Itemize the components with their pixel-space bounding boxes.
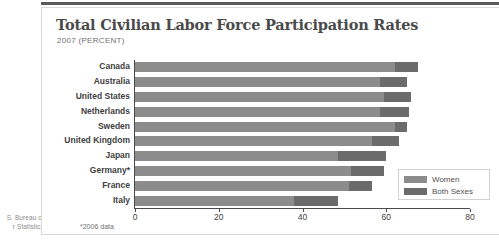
chart-title: Total Civilian Labor Force Participation… — [56, 16, 418, 33]
category-label: Australia — [94, 76, 130, 87]
bar-row: Canada — [135, 62, 470, 72]
bar-segment-women — [135, 136, 372, 146]
category-label: United States — [76, 91, 130, 102]
bar-segment-women — [135, 122, 395, 132]
category-label: Canada — [99, 61, 130, 72]
chart-footnote: *2006 data — [80, 223, 114, 230]
bar-segment-women — [135, 151, 338, 161]
chart-panel: Total Civilian Labor Force Participation… — [41, 7, 499, 235]
bar-row: Japan — [135, 151, 470, 161]
category-label: Italy — [113, 195, 130, 206]
source-margin-line-2: r Statistics — [0, 223, 44, 232]
legend-swatch — [404, 188, 427, 195]
bar-row: Australia — [135, 77, 470, 87]
bar-segment-women — [135, 62, 395, 72]
chart-legend: WomenBoth Sexes — [398, 169, 490, 200]
x-axis-tick-label: 20 — [214, 212, 223, 222]
source-margin-line-1: S. Bureau of — [0, 214, 44, 223]
page-source-margin: S. Bureau of r Statistics — [0, 214, 44, 231]
category-label: Japan — [105, 150, 130, 161]
bar-segment-women — [135, 107, 380, 117]
legend-label: Women — [432, 174, 459, 185]
legend-item: Both Sexes — [404, 187, 488, 196]
legend-swatch — [404, 176, 427, 183]
bar-segment-women — [135, 92, 384, 102]
bar-row: United Kingdom — [135, 136, 470, 146]
legend-item: Women — [404, 175, 488, 184]
bar-row: Sweden — [135, 122, 470, 132]
page-canvas: S. Bureau of r Statistics Total Civilian… — [0, 0, 499, 242]
chart-subtitle: 2007 (PERCENT) — [57, 36, 125, 45]
x-axis-tick-label: 40 — [298, 212, 307, 222]
bar-segment-women — [135, 181, 349, 191]
category-label: United Kingdom — [64, 135, 130, 146]
bar-segment-women — [135, 196, 294, 206]
category-label: Germany* — [90, 165, 130, 176]
category-label: France — [102, 180, 130, 191]
legend-label: Both Sexes — [432, 186, 473, 197]
page-top-rule — [41, 2, 499, 5]
bar-segment-women — [135, 77, 380, 87]
x-axis-tick-label: 60 — [382, 212, 391, 222]
bar-row: United States — [135, 92, 470, 102]
category-label: Sweden — [98, 121, 130, 132]
category-label: Netherlands — [81, 106, 130, 117]
bar-row: Netherlands — [135, 107, 470, 117]
bar-segment-women — [135, 166, 351, 176]
x-axis-tick-label: 0 — [133, 212, 138, 222]
x-axis-tick-label: 80 — [465, 212, 474, 222]
